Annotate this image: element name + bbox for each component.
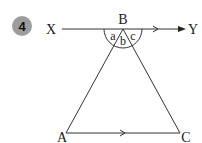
side-bc	[123, 29, 180, 133]
question-number: 4	[18, 19, 26, 34]
label-a: A	[57, 130, 68, 143]
side-ba	[66, 29, 123, 133]
angle-label-b: b	[120, 34, 126, 48]
angle-label-c: c	[130, 29, 135, 43]
angle-label-a: a	[110, 29, 116, 43]
question-badge: 4	[12, 16, 32, 36]
diagram-canvas: 4 X Y B A C a b c	[0, 0, 202, 143]
label-b: B	[118, 12, 127, 27]
arrowhead-icon	[178, 26, 186, 32]
label-c: C	[181, 130, 190, 143]
label-y: Y	[188, 22, 198, 37]
label-x: X	[46, 22, 56, 37]
